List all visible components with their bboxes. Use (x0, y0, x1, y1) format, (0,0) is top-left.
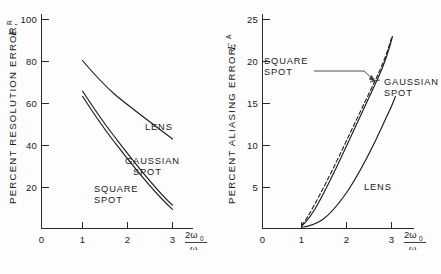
x-tick-label: 2 (344, 234, 349, 245)
annotation-square-line1: SQUARE (264, 56, 308, 66)
curve-label-lens: LENS (364, 182, 392, 192)
resolution-error-plot: PERCENT RESOLUTION ERROR, E R 100 80 60 … (0, 0, 218, 250)
x-axis-numerator: 2ω (185, 229, 198, 240)
x-tick-label: 0 (39, 234, 44, 245)
y-tick-label: 20 (247, 56, 258, 67)
x-axis-title-aliasing: 2ω 0 ω s (404, 229, 426, 250)
annotation-gaussian-spot: GAUSSIAN SPOT (384, 77, 439, 98)
x-axis-numerator-subscript: 0 (419, 235, 423, 242)
curve-label-square-line2: SPOT (94, 195, 123, 205)
curve-label-square: SQUARE SPOT (94, 184, 138, 205)
x-axis-ticks (83, 222, 173, 229)
y-axis-title-aliasing: PERCENT ALIASING ERROR, E A (225, 34, 237, 204)
x-tick-label: 1 (299, 234, 304, 245)
y-axis-symbol: E (225, 43, 237, 51)
x-axis-numerator: 2ω (404, 229, 417, 240)
annotation-gaussian-line1: GAUSSIAN (384, 77, 439, 87)
curve-gaussian-aliasing (302, 38, 392, 226)
y-axis-symbol-subscript: R (6, 20, 13, 25)
x-axis-denominator-subscript: s (198, 248, 202, 250)
x-axis-ticks (302, 222, 392, 229)
aliasing-error-plot: PERCENT ALIASING ERROR, E A 25 20 15 10 … (218, 0, 441, 250)
curve-label-lens: LENS (145, 122, 173, 132)
x-axis-title-resolution: 2ω 0 ω s (185, 229, 207, 250)
x-axis-tick-labels: 0 1 2 3 (260, 234, 394, 245)
y-tick-label: 60 (26, 98, 37, 109)
x-axis-numerator-subscript: 0 (200, 235, 204, 242)
chart-panel-aliasing-error: PERCENT ALIASING ERROR, E A 25 20 15 10 … (218, 0, 441, 250)
y-tick-label: 100 (21, 14, 37, 25)
y-axis-tick-labels: 100 80 60 40 20 (21, 14, 37, 193)
annotation-square-line2: SPOT (264, 67, 293, 77)
y-axis-symbol-subscript: A (225, 34, 232, 39)
y-axis-title-text: PERCENT RESOLUTION ERROR, (7, 22, 18, 204)
y-axis-tick-labels: 25 20 15 10 5 (247, 14, 258, 193)
y-tick-label: 25 (247, 14, 258, 25)
x-tick-label: 3 (389, 234, 394, 245)
y-tick-label: 40 (26, 140, 37, 151)
curve-label-gaussian: GAUSSIAN SPOT (125, 156, 180, 177)
x-axis-tick-labels: 0 1 2 3 (39, 234, 175, 245)
y-tick-label: 15 (247, 98, 258, 109)
x-axis-denominator: ω (190, 243, 197, 250)
y-tick-label: 10 (247, 140, 258, 151)
y-axis-title-resolution: PERCENT RESOLUTION ERROR, E R (6, 20, 18, 204)
curve-label-gaussian-line1: GAUSSIAN (125, 156, 180, 166)
annotation-square-leader-line (314, 71, 375, 81)
x-tick-label: 1 (80, 234, 85, 245)
y-axis-ticks (263, 20, 270, 188)
y-tick-label: 20 (26, 182, 37, 193)
x-tick-label: 0 (260, 234, 265, 245)
y-tick-label: 5 (253, 182, 258, 193)
y-tick-label: 80 (26, 56, 37, 67)
x-tick-label: 2 (125, 234, 130, 245)
y-axis-ticks (42, 20, 49, 188)
annotation-gaussian-line2: SPOT (384, 88, 413, 98)
y-axis-symbol: E (6, 29, 18, 37)
x-axis-denominator-subscript: s (417, 248, 421, 250)
axis-lines (263, 14, 415, 229)
x-axis-denominator: ω (409, 243, 416, 250)
curve-square-aliasing (302, 37, 393, 227)
y-axis-title-text: PERCENT ALIASING ERROR, (226, 43, 237, 204)
figure-container: PERCENT RESOLUTION ERROR, E R 100 80 60 … (0, 0, 441, 274)
curve-label-gaussian-line2: SPOT (133, 167, 162, 177)
chart-panel-resolution-error: PERCENT RESOLUTION ERROR, E R 100 80 60 … (0, 0, 218, 250)
annotation-square-spot: SQUARE SPOT (264, 56, 380, 82)
curve-label-square-line1: SQUARE (94, 184, 138, 194)
x-tick-label: 3 (170, 234, 175, 245)
